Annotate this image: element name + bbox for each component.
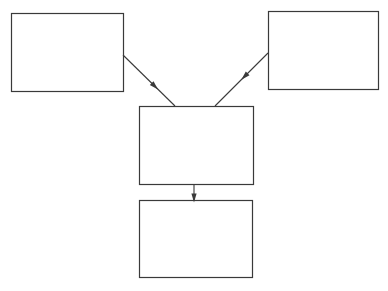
box-outline bbox=[12, 14, 124, 92]
box-top-right bbox=[269, 12, 379, 90]
nodes-layer bbox=[12, 12, 379, 278]
edge-box-top-left-to-box-middle bbox=[123, 55, 175, 106]
box-middle bbox=[140, 107, 254, 185]
box-outline bbox=[140, 107, 254, 185]
box-top-left bbox=[12, 14, 124, 92]
box-bottom bbox=[140, 201, 253, 278]
connector-line bbox=[123, 55, 175, 106]
box-outline bbox=[140, 201, 253, 278]
edge-box-top-right-to-box-middle bbox=[215, 53, 268, 106]
edges-layer bbox=[123, 53, 268, 202]
box-outline bbox=[269, 12, 379, 90]
diagram-canvas bbox=[0, 0, 388, 291]
flow-diagram bbox=[0, 0, 388, 291]
edge-box-middle-to-box-bottom bbox=[191, 184, 196, 202]
